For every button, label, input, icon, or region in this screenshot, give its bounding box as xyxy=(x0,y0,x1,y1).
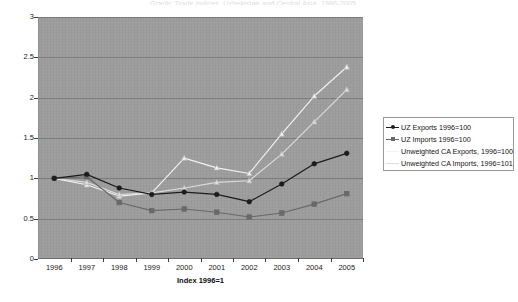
data-point-circle xyxy=(214,192,219,197)
x-axis-labels: 1996199719981999200020012002200320042005 xyxy=(38,263,363,275)
x-tick-label: 2002 xyxy=(232,263,266,272)
chart-figure: Graph: Trade indices, Uzbekistan and Cen… xyxy=(0,0,518,302)
data-point-triangle xyxy=(182,155,187,160)
x-tick-mark xyxy=(201,258,202,262)
x-tick-label: 2001 xyxy=(200,263,234,272)
y-tick-mark xyxy=(34,178,38,179)
legend-marker-triangle-icon xyxy=(386,158,399,169)
y-axis-labels: 32.521.510.50 xyxy=(0,0,34,302)
y-tick-mark xyxy=(34,57,38,58)
y-tick-label: 2 xyxy=(4,94,34,102)
data-point-triangle xyxy=(344,64,349,69)
legend-item-label: Unweighted CA Imports, 1996=101 xyxy=(401,159,513,168)
y-tick-label: 2.5 xyxy=(4,53,34,61)
data-point-circle xyxy=(247,199,252,204)
x-tick-mark xyxy=(331,258,332,262)
data-point-square xyxy=(149,208,154,213)
data-point-square xyxy=(312,202,317,207)
y-tick-label: 3 xyxy=(4,13,34,21)
chart-legend: UZ Exports 1996=100UZ Imports 1996=100Un… xyxy=(383,117,514,171)
x-axis-title: Index 1996=1 xyxy=(38,276,363,285)
x-tick-label: 2003 xyxy=(265,263,299,272)
series-group xyxy=(52,151,349,204)
data-point-square xyxy=(182,207,187,212)
plot-area xyxy=(38,17,363,259)
series-group xyxy=(52,174,349,219)
data-point-circle xyxy=(149,192,154,197)
y-tick-label: 0 xyxy=(4,255,34,263)
x-tick-label: 2004 xyxy=(297,263,331,272)
legend-marker-square-icon xyxy=(386,134,399,145)
x-tick-label: 1997 xyxy=(70,263,104,272)
series-group xyxy=(52,87,350,197)
data-point-circle xyxy=(344,151,349,156)
x-tick-mark xyxy=(233,258,234,262)
y-tick-label: 0.5 xyxy=(4,215,34,223)
cropped-title-sliver: Graph: Trade indices, Uzbekistan and Cen… xyxy=(150,0,410,5)
x-tick-mark xyxy=(298,258,299,262)
data-point-circle xyxy=(117,186,122,191)
data-point-square xyxy=(344,191,349,196)
series-line xyxy=(54,153,347,201)
series-line xyxy=(54,67,347,196)
y-tick-mark xyxy=(34,259,38,260)
x-tick-label: 1998 xyxy=(102,263,136,272)
series-layer xyxy=(38,17,363,259)
y-tick-mark xyxy=(34,98,38,99)
legend-marker-triangle-icon xyxy=(386,146,399,157)
data-point-square xyxy=(117,200,122,205)
x-tick-label: 1996 xyxy=(37,263,71,272)
x-tick-label: 2005 xyxy=(330,263,364,272)
legend-item[interactable]: UZ Imports 1996=100 xyxy=(386,133,511,145)
x-tick-mark xyxy=(363,258,364,262)
x-tick-label: 2000 xyxy=(167,263,201,272)
data-point-square xyxy=(214,210,219,215)
legend-item-label: UZ Exports 1996=100 xyxy=(401,123,471,132)
data-point-circle xyxy=(52,176,57,181)
x-tick-mark xyxy=(265,258,266,262)
legend-item[interactable]: UZ Exports 1996=100 xyxy=(386,121,511,133)
legend-item[interactable]: Unweighted CA Exports, 1996=100 xyxy=(386,145,511,157)
data-point-square xyxy=(247,215,252,220)
legend-item-label: Unweighted CA Exports, 1996=100 xyxy=(401,147,513,156)
legend-marker-circle-icon xyxy=(386,122,399,133)
x-tick-label: 1999 xyxy=(135,263,169,272)
y-tick-label: 1 xyxy=(4,174,34,182)
y-tick-mark xyxy=(34,138,38,139)
data-point-circle xyxy=(279,182,284,187)
y-axis-line xyxy=(38,17,39,259)
x-tick-mark xyxy=(136,258,137,262)
y-tick-mark xyxy=(34,219,38,220)
data-point-square xyxy=(279,211,284,216)
legend-item-label: UZ Imports 1996=100 xyxy=(401,135,471,144)
legend-item[interactable]: Unweighted CA Imports, 1996=101 xyxy=(386,157,511,169)
x-tick-mark xyxy=(168,258,169,262)
data-point-circle xyxy=(312,162,317,167)
x-tick-mark xyxy=(103,258,104,262)
series-line xyxy=(54,177,347,217)
data-point-circle xyxy=(182,190,187,195)
x-tick-mark xyxy=(71,258,72,262)
data-point-circle xyxy=(84,172,89,177)
y-tick-label: 1.5 xyxy=(4,134,34,142)
data-point-triangle xyxy=(344,87,349,92)
y-tick-mark xyxy=(34,17,38,18)
